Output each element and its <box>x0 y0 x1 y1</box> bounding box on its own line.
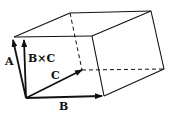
parallelepiped-diagram: A B×C C B <box>0 0 170 116</box>
label-c: C <box>51 70 60 81</box>
diagram-canvas <box>0 0 170 116</box>
hidden-edges <box>70 13 164 70</box>
vector-b <box>26 96 102 98</box>
label-a: A <box>5 56 14 67</box>
label-b: B <box>59 101 68 112</box>
label-bxc: B×C <box>28 53 55 64</box>
